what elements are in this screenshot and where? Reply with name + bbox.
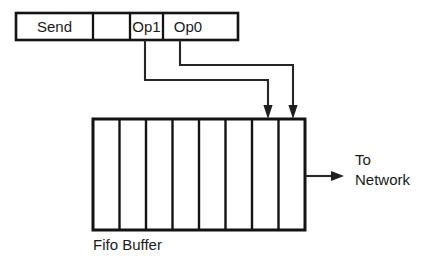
- network-output-label-line-2: Network: [355, 171, 411, 188]
- instruction-cell-send-label: Send: [37, 18, 72, 35]
- op0-connector-path: [180, 40, 293, 105]
- op1-connector: [145, 40, 273, 119]
- instruction-cell-send: Send: [37, 18, 72, 35]
- op1-arrowhead-icon: [263, 105, 272, 119]
- network-output-label-line-1: To: [355, 151, 371, 168]
- instruction-cell-op1: Op1: [132, 18, 160, 35]
- diagram-canvas: Send Op1 Op0: [0, 0, 436, 265]
- network-output-arrowhead-icon: [331, 171, 344, 181]
- send-instruction-word: Send Op1 Op0: [16, 13, 238, 40]
- op1-connector-path: [145, 40, 268, 105]
- instruction-cell-op1-label: Op1: [132, 18, 160, 35]
- network-output: To Network: [305, 151, 411, 188]
- diagram-svg: Send Op1 Op0: [0, 0, 436, 265]
- fifo-buffer: Fifo Buffer: [93, 119, 305, 253]
- instruction-cell-op0: Op0: [174, 18, 202, 35]
- instruction-cell-op0-label: Op0: [174, 18, 202, 35]
- fifo-buffer-label: Fifo Buffer: [93, 236, 162, 253]
- op0-arrowhead-icon: [288, 105, 297, 119]
